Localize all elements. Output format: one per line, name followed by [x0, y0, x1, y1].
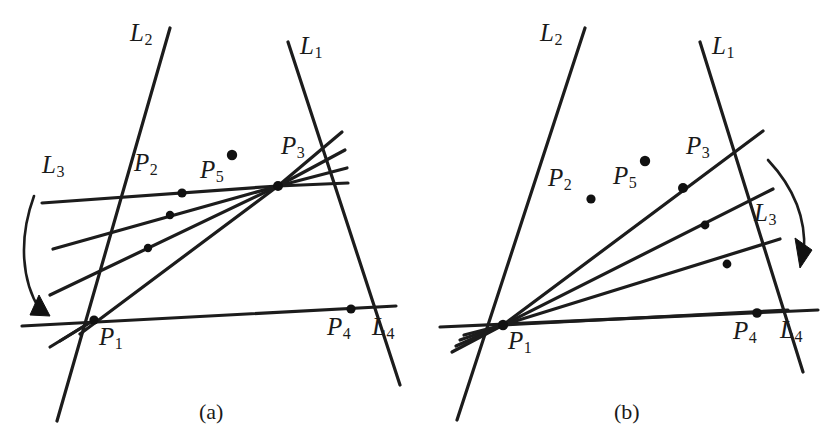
point-intersection-1-panel-b [701, 221, 710, 230]
label-L4-b: L4 [780, 317, 802, 345]
point-P5-panel-b [640, 156, 650, 166]
label-L3-b: L3 [754, 200, 776, 228]
point-P3-panel-b [678, 183, 688, 193]
label-L2-b: L2 [540, 20, 562, 48]
figure-canvas [0, 0, 839, 442]
point-P2-panel-b [586, 194, 595, 203]
rotation-arrow-a-arc [24, 196, 40, 310]
label-P1-b: P1 [508, 328, 532, 356]
point-P2-panel-a [177, 188, 186, 197]
point-P3-panel-a [273, 181, 283, 191]
line-L2-panel-a [57, 28, 170, 421]
label-P2-a: P2 [134, 150, 158, 178]
label-P4-a: P4 [327, 314, 351, 342]
line-L2-panel-b [457, 28, 585, 420]
caption-a: (a) [199, 399, 223, 425]
panel-a-geometry [22, 28, 400, 421]
label-P2-b: P2 [548, 165, 572, 193]
label-L1-a: L1 [300, 33, 322, 61]
label-P3-a: P3 [281, 133, 305, 161]
label-L2-a: L2 [130, 20, 152, 48]
point-intersection-2-panel-a [144, 244, 152, 252]
label-L3-a: L3 [42, 152, 64, 180]
point-P1-panel-b [498, 320, 508, 330]
label-P5-b: P5 [613, 163, 637, 191]
point-P4-panel-b [752, 308, 762, 318]
label-P3-b: P3 [686, 133, 710, 161]
label-P1-a: P1 [99, 324, 123, 352]
label-L4-a: L4 [372, 314, 394, 342]
point-P4-panel-a [346, 304, 355, 313]
point-P5-panel-a [227, 150, 237, 160]
line-L3-rotation-2-panel-b [503, 189, 773, 325]
label-P4-b: P4 [733, 318, 757, 346]
point-P1-panel-a [89, 315, 98, 324]
point-intersection-1-panel-a [166, 211, 174, 219]
caption-b: (b) [614, 399, 640, 425]
point-intersection-2-panel-b [723, 260, 732, 269]
figure-root: L2L1L3P2P5P3P1P4L4L2L1L3P2P5P3P1P4L4(a)(… [0, 0, 839, 442]
label-L1-b: L1 [712, 33, 734, 61]
label-P5-a: P5 [200, 157, 224, 185]
line-L3-rotation-4-panel-a [80, 186, 278, 334]
